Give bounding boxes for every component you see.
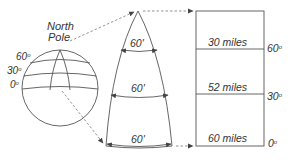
distance-label-0: 60 miles	[208, 132, 248, 144]
gore-width-label-top: 60'	[130, 37, 145, 49]
globe-lat-60-label: 60o	[16, 51, 31, 62]
meridian-right	[60, 50, 70, 90]
gore	[106, 11, 172, 148]
gore-width-label-middle: 60'	[131, 82, 146, 94]
meridian-left	[50, 50, 60, 90]
projection-lat-30-label: 30o	[267, 90, 283, 102]
gore-width-label-bottom: 60'	[131, 133, 146, 145]
latitude-line-0	[22, 87, 98, 90]
globe-lat-30-label: 30o	[7, 65, 22, 76]
latitude-line-60	[30, 60, 90, 64]
projection-rectangle	[196, 11, 264, 146]
dashed-arrow-pole-to-apex	[70, 12, 134, 41]
map-projection-diagram: North Pole 60o 30o 0o 60' 60' 60' 30 mil…	[0, 0, 290, 164]
distance-label-30: 52 miles	[208, 81, 248, 93]
distance-label-60: 30 miles	[208, 36, 248, 48]
projection-outline	[196, 11, 264, 146]
projection-lat-0-label: 0o	[268, 137, 278, 149]
gore-width-arrow-middle	[111, 95, 168, 98]
globe	[22, 50, 98, 126]
latitude-line-30	[24, 73, 97, 76]
gore-width-arrow-top	[121, 50, 157, 52]
gore-right-edge	[138, 11, 172, 146]
gore-left-edge	[106, 11, 138, 146]
globe-lat-0-label: 0o	[10, 79, 20, 90]
projection-lat-60-label: 60o	[267, 42, 283, 54]
north-pole-label-2: Pole	[48, 31, 70, 43]
